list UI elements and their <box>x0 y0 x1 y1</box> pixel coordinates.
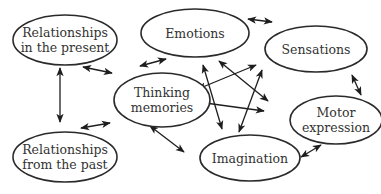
node-thinking-memories: Thinkingmemories <box>114 73 210 127</box>
edge-thinking-memories-to-emotions <box>140 59 166 66</box>
edge-emotions-to-motor-expression <box>219 61 268 101</box>
node-emotions: Emotions <box>141 9 249 57</box>
node-label: Motor <box>317 105 356 120</box>
node-label: Thinking <box>134 85 190 100</box>
node-label: Sensations <box>282 42 351 57</box>
node-relationships-present: Relationshipsin the present <box>13 15 117 65</box>
concept-diagram: Relationshipsin the presentEmotionsSensa… <box>0 0 381 194</box>
node-label: Emotions <box>165 26 225 41</box>
node-relationships-past: Relationshipsfrom the past <box>13 132 117 182</box>
edge-thinking-memories-to-imagination <box>150 126 184 152</box>
nodes-layer: Relationshipsin the presentEmotionsSensa… <box>13 9 381 182</box>
edge-sensations-to-motor-expression <box>352 75 361 95</box>
node-motor-expression: Motorexpression <box>290 96 381 144</box>
edge-relationships-present-to-thinking-memories <box>83 67 112 73</box>
node-label: in the present <box>21 40 110 55</box>
node-sensations: Sensations <box>265 26 367 72</box>
node-imagination: Imagination <box>200 135 300 181</box>
node-label: Relationships <box>22 142 108 157</box>
edge-emotions-to-sensations <box>248 19 272 22</box>
edge-thinking-memories-to-relationships-past <box>81 123 110 128</box>
node-label: Imagination <box>212 151 288 166</box>
edge-imagination-to-motor-expression <box>301 145 321 157</box>
node-label: Relationships <box>22 25 108 40</box>
node-label: expression <box>302 120 370 135</box>
node-label: memories <box>131 100 193 115</box>
edge-sensations-to-imagination <box>239 70 262 132</box>
node-label: from the past <box>22 157 107 172</box>
